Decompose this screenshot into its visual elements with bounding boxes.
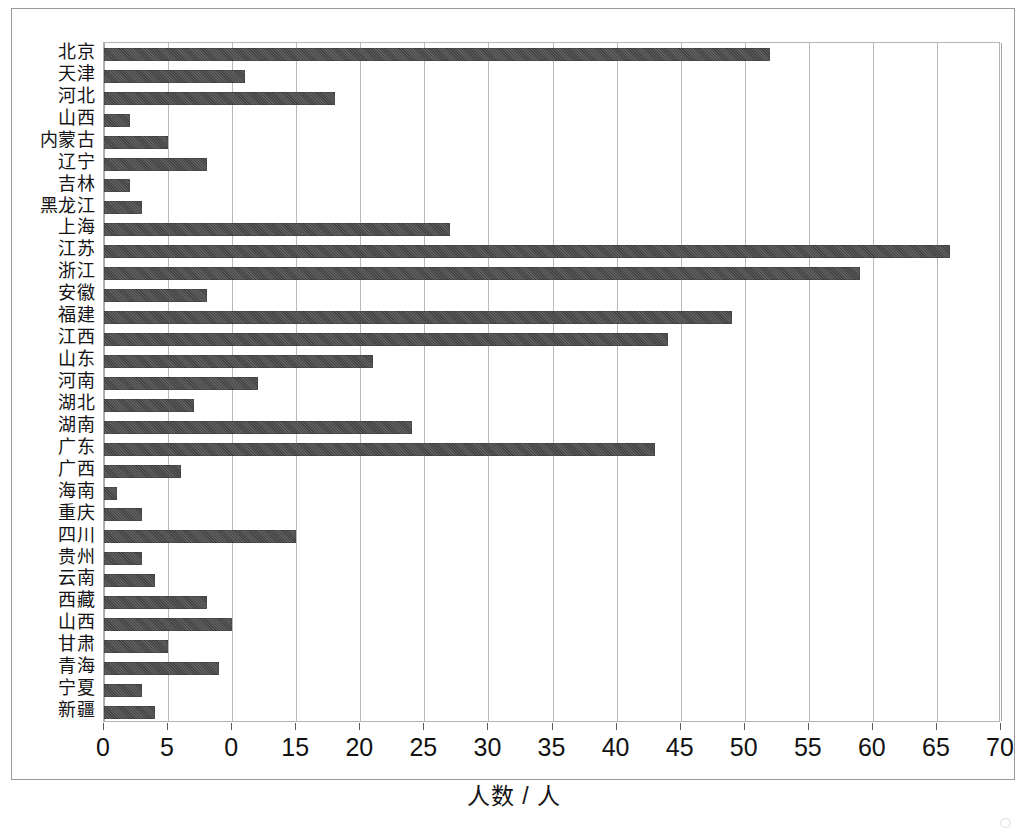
bar[interactable]: [104, 179, 130, 192]
bar-row[interactable]: [104, 284, 1001, 307]
plot-area: [103, 42, 1000, 722]
y-axis-label: 云南: [58, 567, 95, 590]
bar[interactable]: [104, 530, 296, 543]
x-tick-mark: [936, 723, 937, 730]
bar-row[interactable]: [104, 416, 1001, 439]
y-axis-label: 吉林: [58, 173, 95, 196]
bar-row[interactable]: [104, 613, 1001, 636]
bar[interactable]: [104, 640, 168, 653]
bar[interactable]: [104, 508, 142, 521]
bar[interactable]: [104, 223, 450, 236]
bar[interactable]: [104, 443, 655, 456]
bar[interactable]: [104, 245, 950, 258]
bar[interactable]: [104, 355, 373, 368]
x-tick-label: 20: [345, 733, 373, 762]
bar-row[interactable]: [104, 394, 1001, 417]
x-tick-mark: [808, 723, 809, 730]
bar-row[interactable]: [104, 153, 1001, 176]
y-axis-label: 广东: [58, 436, 95, 459]
x-tick-label: 40: [602, 733, 630, 762]
bar[interactable]: [104, 114, 130, 127]
y-axis-label: 海南: [58, 480, 95, 503]
gridline-70: [1001, 43, 1002, 721]
y-axis-label: 西藏: [58, 589, 95, 612]
x-tick-mark: [103, 723, 104, 730]
bar-row[interactable]: [104, 306, 1001, 329]
bar-row[interactable]: [104, 197, 1001, 220]
x-tick-label: 70: [986, 733, 1014, 762]
bar[interactable]: [104, 618, 232, 631]
scan-artifact: [1000, 818, 1011, 828]
chart-frame: 北京天津河北山西内蒙古辽宁吉林黑龙江上海江苏浙江安徽福建江西山东河南湖北湖南广东…: [11, 8, 1015, 780]
bar[interactable]: [104, 684, 142, 697]
bar-row[interactable]: [104, 350, 1001, 373]
bar-row[interactable]: [104, 569, 1001, 592]
bar[interactable]: [104, 465, 181, 478]
bar-row[interactable]: [104, 548, 1001, 571]
bar-row[interactable]: [104, 438, 1001, 461]
bar[interactable]: [104, 201, 142, 214]
bar[interactable]: [104, 92, 335, 105]
x-axis-ticks: 050152025303540455055606570: [103, 723, 1001, 763]
bar-row[interactable]: [104, 65, 1001, 88]
bar-row[interactable]: [104, 591, 1001, 614]
x-tick-mark: [744, 723, 745, 730]
bar-row[interactable]: [104, 657, 1001, 680]
bar-row[interactable]: [104, 262, 1001, 285]
x-tick-mark: [616, 723, 617, 730]
bar-row[interactable]: [104, 175, 1001, 198]
bar[interactable]: [104, 399, 194, 412]
y-axis-label: 福建: [58, 304, 95, 327]
x-tick-label: 50: [730, 733, 758, 762]
y-axis-label: 贵州: [58, 546, 95, 569]
x-axis-title: 人数 / 人: [12, 777, 1016, 811]
bar[interactable]: [104, 706, 155, 719]
bar[interactable]: [104, 662, 219, 675]
bar[interactable]: [104, 552, 142, 565]
bar-row[interactable]: [104, 131, 1001, 154]
x-tick-mark: [423, 723, 424, 730]
bar-row[interactable]: [104, 328, 1001, 351]
y-axis-label: 山西: [58, 107, 95, 130]
bar[interactable]: [104, 574, 155, 587]
bar-row[interactable]: [104, 109, 1001, 132]
bar[interactable]: [104, 48, 770, 61]
bar-row[interactable]: [104, 372, 1001, 395]
bar[interactable]: [104, 267, 860, 280]
bar[interactable]: [104, 70, 245, 83]
bar-row[interactable]: [104, 43, 1001, 66]
bar-row[interactable]: [104, 635, 1001, 658]
bar[interactable]: [104, 289, 207, 302]
bar[interactable]: [104, 421, 412, 434]
x-tick-label: 55: [794, 733, 822, 762]
bar-row[interactable]: [104, 87, 1001, 110]
bar-row[interactable]: [104, 679, 1001, 702]
y-axis-label: 内蒙古: [40, 129, 96, 152]
bar-row[interactable]: [104, 701, 1001, 724]
y-axis-label: 广西: [58, 458, 95, 481]
bar-row[interactable]: [104, 526, 1001, 549]
bar[interactable]: [104, 487, 117, 500]
bar[interactable]: [104, 311, 732, 324]
x-tick-label: 15: [281, 733, 309, 762]
bar-row[interactable]: [104, 482, 1001, 505]
bar[interactable]: [104, 333, 668, 346]
y-axis-label: 青海: [58, 655, 95, 678]
bar[interactable]: [104, 377, 258, 390]
y-axis-label: 湖北: [58, 392, 95, 415]
bar-row[interactable]: [104, 218, 1001, 241]
y-axis-label: 安徽: [58, 282, 95, 305]
bar-row[interactable]: [104, 460, 1001, 483]
bar[interactable]: [104, 596, 207, 609]
x-tick-mark: [487, 723, 488, 730]
bar-row[interactable]: [104, 504, 1001, 527]
x-tick-mark: [680, 723, 681, 730]
bar[interactable]: [104, 158, 207, 171]
bar[interactable]: [104, 136, 168, 149]
x-tick-mark: [167, 723, 168, 730]
x-tick-label: 60: [858, 733, 886, 762]
y-axis-label: 山东: [58, 348, 95, 371]
y-axis-label: 新疆: [58, 699, 95, 722]
y-axis-label: 江西: [58, 326, 95, 349]
bar-row[interactable]: [104, 240, 1001, 263]
